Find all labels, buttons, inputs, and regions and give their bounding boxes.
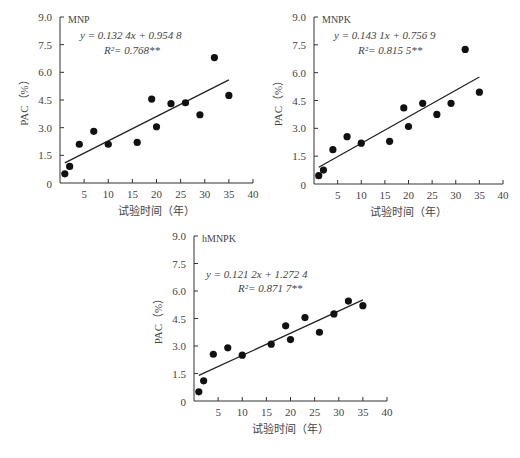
x-tick-label: 25	[175, 188, 187, 200]
x-tick-label: 25	[309, 406, 321, 418]
y-tick-label: 9.0	[38, 11, 52, 23]
y-tick-label: 4.5	[38, 94, 52, 106]
x-tick-label: 30	[199, 188, 211, 200]
regression-equation: y = 0.143 1x + 0.756 9	[333, 29, 436, 41]
chart-panel-hMNPK: 01.53.04.56.07.59.0510152025303540试验时间（年…	[152, 230, 393, 435]
data-point	[476, 89, 483, 96]
x-tick-label: 25	[427, 189, 439, 201]
data-point	[316, 329, 323, 336]
x-tick-label: 35	[357, 406, 369, 418]
x-tick-label: 15	[127, 188, 139, 200]
x-tick-label: 15	[261, 406, 273, 418]
data-point	[195, 388, 202, 395]
x-axis-label: 试验时间（年）	[252, 422, 329, 435]
data-point	[196, 111, 203, 118]
data-point	[210, 351, 217, 358]
data-point	[343, 133, 350, 140]
data-point	[400, 104, 407, 111]
data-point	[329, 146, 336, 153]
chart-panel-MNP: 01.53.04.56.07.59.0510152025303540试验时间（年…	[18, 11, 259, 217]
data-point	[224, 344, 231, 351]
x-tick-label: 40	[382, 406, 394, 418]
x-tick-label: 5	[81, 188, 87, 200]
r-squared: R²= 0.871 7**	[237, 282, 303, 294]
panel-title: hMNPK	[202, 233, 237, 244]
y-tick-label: 3.0	[172, 340, 186, 352]
x-axis-label: 试验时间（年）	[118, 204, 195, 217]
chart-canvas: 01.53.04.56.07.59.0510152025303540试验时间（年…	[0, 0, 520, 458]
y-tick-label: 4.5	[292, 95, 306, 107]
data-point	[268, 341, 275, 348]
x-tick-label: 5	[215, 406, 221, 418]
x-tick-label: 10	[237, 406, 249, 418]
data-point	[282, 322, 289, 329]
x-tick-label: 10	[103, 188, 115, 200]
data-point	[386, 138, 393, 145]
data-point	[167, 100, 174, 107]
y-tick-label: 9.0	[172, 230, 186, 242]
trend-line	[65, 80, 229, 163]
y-tick-label: 0	[47, 178, 53, 190]
r-squared: R²= 0.815 5**	[357, 44, 423, 56]
y-tick-label: 0	[301, 179, 307, 191]
chart-panel-MNPK: 01.53.04.56.07.59.0510152025303540试验时间（年…	[272, 11, 509, 218]
data-point	[200, 377, 207, 384]
x-tick-label: 15	[379, 189, 391, 201]
y-tick-label: 6.0	[292, 67, 306, 79]
y-axis-label: PAC（%）	[152, 293, 164, 345]
y-tick-label: 6.0	[172, 285, 186, 297]
data-point	[90, 128, 97, 135]
data-point	[359, 302, 366, 309]
regression-equation: y = 0.121 2x + 1.272 4	[205, 268, 308, 280]
x-tick-label: 20	[285, 406, 297, 418]
y-tick-label: 0	[181, 396, 187, 408]
y-tick-label: 6.0	[38, 66, 52, 78]
y-tick-label: 7.5	[292, 39, 306, 51]
regression-equation: y = 0.132 4x + 0.954 8	[79, 29, 182, 41]
data-point	[134, 139, 141, 146]
panel-title: MNP	[68, 14, 90, 25]
panel-title: MNPK	[322, 14, 352, 25]
data-point	[433, 111, 440, 118]
y-tick-label: 3.0	[38, 122, 52, 134]
x-tick-label: 30	[450, 189, 462, 201]
data-point	[405, 123, 412, 130]
data-point	[320, 166, 327, 173]
y-tick-label: 1.5	[292, 150, 306, 162]
x-axis-label: 试验时间（年）	[370, 205, 447, 218]
y-axis-label: PAC（%）	[18, 74, 30, 126]
x-tick-label: 10	[356, 189, 368, 201]
data-point	[345, 297, 352, 304]
trend-line	[199, 300, 363, 376]
x-tick-label: 5	[335, 189, 341, 201]
x-tick-label: 20	[403, 189, 415, 201]
x-tick-label: 35	[474, 189, 486, 201]
x-tick-label: 40	[498, 189, 510, 201]
trend-line	[319, 77, 480, 167]
y-tick-label: 1.5	[38, 149, 52, 161]
data-point	[182, 99, 189, 106]
y-tick-label: 1.5	[172, 368, 186, 380]
data-point	[315, 172, 322, 179]
data-point	[239, 352, 246, 359]
data-point	[358, 140, 365, 147]
data-point	[225, 92, 232, 99]
y-tick-label: 3.0	[292, 122, 306, 134]
data-point	[419, 100, 426, 107]
x-tick-label: 40	[248, 188, 260, 200]
y-tick-label: 9.0	[292, 11, 306, 23]
x-tick-label: 30	[333, 406, 345, 418]
data-point	[301, 314, 308, 321]
data-point	[61, 170, 68, 177]
data-point	[211, 54, 218, 61]
data-point	[76, 141, 83, 148]
y-tick-label: 7.5	[172, 258, 186, 270]
y-axis-label: PAC（%）	[272, 75, 284, 127]
x-tick-label: 20	[151, 188, 163, 200]
data-point	[148, 95, 155, 102]
x-tick-label: 35	[223, 188, 235, 200]
r-squared: R²= 0.768**	[103, 44, 160, 56]
y-tick-label: 7.5	[38, 39, 52, 51]
y-tick-label: 4.5	[172, 313, 186, 325]
data-point	[330, 310, 337, 317]
